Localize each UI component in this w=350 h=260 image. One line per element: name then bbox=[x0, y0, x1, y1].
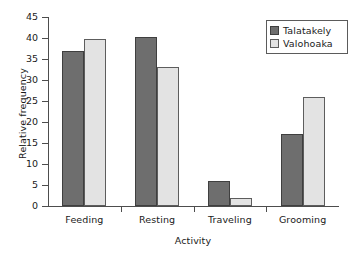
legend-item: Talatakely bbox=[270, 24, 343, 37]
x-axis-category-label: Traveling bbox=[194, 214, 267, 225]
bar-feeding-talatakely bbox=[62, 51, 84, 206]
y-axis-line bbox=[48, 17, 49, 207]
dark-gray-swatch bbox=[270, 26, 279, 35]
y-axis-tick bbox=[42, 59, 48, 60]
light-gray-swatch bbox=[270, 39, 279, 48]
y-axis-tick-label: 10 bbox=[0, 159, 38, 169]
bar-resting-talatakely bbox=[135, 37, 157, 206]
y-axis-tick bbox=[42, 206, 48, 207]
bar-feeding-valohoaka bbox=[84, 39, 106, 206]
y-axis-tick-label: 45 bbox=[0, 12, 38, 22]
x-axis-title: Activity bbox=[48, 235, 338, 246]
y-axis-tick bbox=[42, 38, 48, 39]
y-axis-tick-label: 5 bbox=[0, 180, 38, 190]
bar-grooming-valohoaka bbox=[303, 97, 325, 206]
y-axis-tick bbox=[42, 101, 48, 102]
y-axis-tick bbox=[42, 122, 48, 123]
legend-item-label: Talatakely bbox=[283, 25, 331, 36]
x-axis-tick bbox=[194, 207, 195, 212]
y-axis-tick bbox=[42, 143, 48, 144]
bar-chart: Relative frequency Activity 051015202530… bbox=[0, 0, 350, 260]
y-axis-tick-label: 20 bbox=[0, 117, 38, 127]
y-axis-tick-label: 35 bbox=[0, 54, 38, 64]
x-axis-category-label: Grooming bbox=[266, 214, 339, 225]
x-axis-category-label: Feeding bbox=[48, 214, 121, 225]
x-axis-category-label: Resting bbox=[121, 214, 194, 225]
x-axis-tick bbox=[266, 207, 267, 212]
y-axis-tick-label: 40 bbox=[0, 33, 38, 43]
y-axis-tick-label: 0 bbox=[0, 201, 38, 211]
y-axis-tick bbox=[42, 164, 48, 165]
y-axis-tick bbox=[42, 80, 48, 81]
legend-item: Valohoaka bbox=[270, 37, 343, 50]
y-axis-tick-label: 30 bbox=[0, 75, 38, 85]
bar-resting-valohoaka bbox=[157, 67, 179, 206]
legend-item-label: Valohoaka bbox=[283, 38, 333, 49]
bar-traveling-valohoaka bbox=[230, 198, 252, 206]
y-axis-tick bbox=[42, 17, 48, 18]
y-axis-tick-label: 25 bbox=[0, 96, 38, 106]
bar-traveling-talatakely bbox=[208, 181, 230, 206]
x-axis-tick bbox=[121, 207, 122, 212]
legend: Talatakely Valohoaka bbox=[266, 20, 348, 54]
y-axis-tick-label: 15 bbox=[0, 138, 38, 148]
y-axis-tick bbox=[42, 185, 48, 186]
bar-grooming-talatakely bbox=[281, 134, 303, 206]
